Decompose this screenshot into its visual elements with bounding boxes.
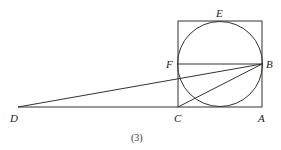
geometry-figure: E F B D C A (3) bbox=[0, 0, 281, 150]
label-a: A bbox=[257, 112, 265, 124]
segment-cb bbox=[178, 64, 262, 107]
label-b: B bbox=[266, 58, 273, 70]
segment-db bbox=[18, 64, 262, 107]
label-e: E bbox=[215, 7, 223, 19]
label-c: C bbox=[174, 112, 182, 124]
label-d: D bbox=[9, 112, 18, 124]
figure-caption: (3) bbox=[131, 132, 143, 144]
label-f: F bbox=[165, 58, 173, 70]
